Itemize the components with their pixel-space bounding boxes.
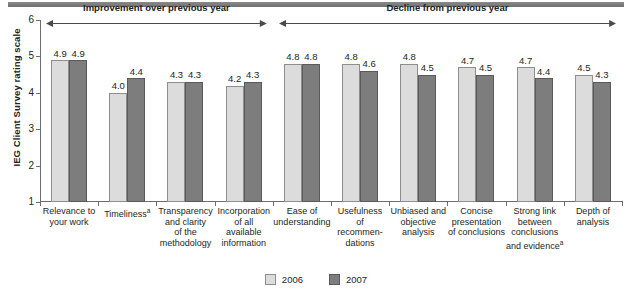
category-label-line: Depth of bbox=[564, 206, 622, 217]
bar-value-label: 4.5 bbox=[415, 63, 439, 73]
category-label-line: Ease of bbox=[273, 206, 331, 217]
bar-value-label: 4.5 bbox=[473, 63, 497, 73]
category-label-line: analysis bbox=[564, 217, 622, 228]
category-label-line: Transparency bbox=[156, 206, 214, 217]
bar-group: 4.74.4 bbox=[506, 20, 564, 202]
category-label-line: Incorporation bbox=[215, 206, 273, 217]
bar-2007 bbox=[69, 60, 87, 202]
category-label: Unbiased andobjectiveanalysis bbox=[389, 206, 447, 238]
bar-group: 4.94.9 bbox=[40, 20, 98, 202]
footnote-marker: a bbox=[147, 207, 151, 214]
bar-value-label: 4.3 bbox=[241, 70, 265, 80]
category-label-line: conclusions bbox=[506, 227, 564, 238]
legend-swatch-2006 bbox=[265, 274, 276, 285]
bar-group: 4.34.3 bbox=[156, 20, 214, 202]
category-label: Relevance toyour work bbox=[40, 206, 98, 227]
bar-group: 4.84.8 bbox=[273, 20, 331, 202]
y-tick-label-5: 5 bbox=[18, 51, 34, 61]
bar-2007 bbox=[302, 64, 320, 202]
category-label-line: of all bbox=[215, 217, 273, 228]
category-label-line: analysis bbox=[389, 227, 447, 238]
category-label: Transparencyand clarityof themethodology bbox=[156, 206, 214, 248]
y-tick-label-4: 4 bbox=[18, 88, 34, 98]
category-label: Incorporationof allavailableinformation bbox=[215, 206, 273, 248]
annotation-improvement-text: Improvement over previous year bbox=[46, 2, 267, 13]
annotation-decline-double-arrow-icon bbox=[279, 19, 616, 28]
category-label-line: of bbox=[331, 217, 389, 228]
bar-value-label: 4.8 bbox=[397, 52, 421, 62]
legend-label-2007: 2007 bbox=[346, 274, 367, 285]
category-label-line: dations bbox=[331, 238, 389, 249]
category-label: Ease ofunderstanding bbox=[273, 206, 331, 227]
category-label: Usefulnessofrecommen-dations bbox=[331, 206, 389, 248]
category-label-line: and clarity bbox=[156, 217, 214, 228]
category-label-line: recommen- bbox=[331, 227, 389, 238]
bar-2007 bbox=[127, 78, 145, 202]
y-tick-label-1: 1 bbox=[18, 197, 34, 207]
legend-label-2006: 2006 bbox=[282, 274, 303, 285]
category-label-line: Relevance to bbox=[40, 206, 98, 217]
bar-value-label: 4.7 bbox=[514, 56, 538, 66]
bar-value-label: 4.8 bbox=[299, 52, 323, 62]
annotation-decline-text: Decline from previous year bbox=[279, 2, 616, 13]
category-label-line: Unbiased and bbox=[389, 206, 447, 217]
bar-2007 bbox=[185, 82, 203, 202]
bar-2006 bbox=[517, 67, 535, 202]
bar-value-label: 4.9 bbox=[66, 49, 90, 59]
category-label-line: information bbox=[215, 238, 273, 249]
y-tick-label-6: 6 bbox=[18, 15, 34, 25]
category-label: Strong linkbetweenconclusionsand evidenc… bbox=[506, 206, 564, 251]
bar-2007 bbox=[360, 71, 378, 202]
category-label-line: and evidencea bbox=[506, 238, 564, 252]
category-label: Depth ofanalysis bbox=[564, 206, 622, 227]
category-label-line: between bbox=[506, 217, 564, 228]
category-label-line: of the bbox=[156, 227, 214, 238]
chart-legend: 2006 2007 bbox=[0, 268, 632, 290]
plot-area: 654321 4.94.94.04.44.34.34.24.34.84.84.8… bbox=[40, 20, 622, 202]
bar-2006 bbox=[458, 67, 476, 202]
bar-group: 4.24.3 bbox=[215, 20, 273, 202]
bar-2007 bbox=[418, 75, 436, 202]
category-label-line: methodology bbox=[156, 238, 214, 249]
bar-group: 4.54.3 bbox=[564, 20, 622, 202]
bar-value-label: 4.6 bbox=[357, 59, 381, 69]
legend-item-2007: 2007 bbox=[329, 274, 367, 285]
bar-2007 bbox=[476, 75, 494, 202]
bar-2006 bbox=[109, 93, 127, 202]
bar-2006 bbox=[226, 86, 244, 202]
y-tick-label-2: 2 bbox=[18, 161, 34, 171]
bar-group: 4.84.5 bbox=[389, 20, 447, 202]
category-label-line: objective bbox=[389, 217, 447, 228]
category-labels: Relevance toyour workTimelinessaTranspar… bbox=[40, 206, 622, 268]
bar-value-label: 4.3 bbox=[182, 70, 206, 80]
category-label-line: Usefulness bbox=[331, 206, 389, 217]
category-label-line: presentation bbox=[447, 217, 505, 228]
annotation-decline: Decline from previous year bbox=[279, 2, 616, 28]
chart-root: IEG Client Survey rating scale 654321 4.… bbox=[0, 0, 632, 296]
category-label: Concisepresentationof conclusions bbox=[447, 206, 505, 238]
bar-group: 4.74.5 bbox=[447, 20, 505, 202]
bar-value-label: 4.3 bbox=[590, 70, 614, 80]
category-label-line: Strong link bbox=[506, 206, 564, 217]
bar-2006 bbox=[400, 64, 418, 202]
bar-2006 bbox=[342, 64, 360, 202]
legend-item-2006: 2006 bbox=[265, 274, 303, 285]
category-label-line: Concise bbox=[447, 206, 505, 217]
annotation-improvement: Improvement over previous year bbox=[46, 2, 267, 28]
legend-swatch-2007 bbox=[329, 274, 340, 285]
category-label-line: your work bbox=[40, 217, 98, 228]
bar-2007 bbox=[593, 82, 611, 202]
bar-group: 4.84.6 bbox=[331, 20, 389, 202]
bar-2006 bbox=[284, 64, 302, 202]
footnote-marker: a bbox=[560, 239, 564, 246]
bar-2006 bbox=[51, 60, 69, 202]
y-tick-label-3: 3 bbox=[18, 124, 34, 134]
bar-value-label: 4.4 bbox=[124, 67, 148, 77]
category-label-line: available bbox=[215, 227, 273, 238]
bar-2006 bbox=[575, 75, 593, 202]
category-label: Timelinessa bbox=[98, 206, 156, 220]
bar-2007 bbox=[244, 82, 262, 202]
bar-2006 bbox=[167, 82, 185, 202]
bar-value-label: 4.4 bbox=[532, 67, 556, 77]
category-label-line: of conclusions bbox=[447, 227, 505, 238]
